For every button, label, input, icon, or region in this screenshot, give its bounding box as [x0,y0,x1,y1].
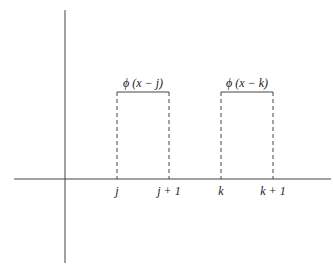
box-phi-x-minus-j: ϕ (x − j) j j + 1 [113,76,180,198]
label-phi-x-minus-j: ϕ (x − j) [123,76,163,90]
diagram-canvas: ϕ (x − j) j j + 1 ϕ (x − k) k k + 1 [0,0,333,273]
box-phi-x-minus-k: ϕ (x − k) k k + 1 [218,76,285,198]
tick-j: j [113,184,119,198]
tick-j-plus-1: j + 1 [155,184,180,198]
label-phi-x-minus-k: ϕ (x − k) [226,76,268,90]
tick-k: k [218,184,224,198]
tick-k-plus-1: k + 1 [260,184,285,198]
